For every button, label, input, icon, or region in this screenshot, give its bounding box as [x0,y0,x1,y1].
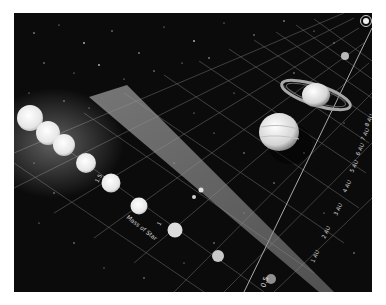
tick-4au: 4 AU [341,179,352,193]
star-3 [53,134,75,156]
tick-7au: 7 AU [359,127,370,141]
star-8 [212,250,224,262]
tick-5au: 5 AU [348,159,359,173]
tick-1au: 1 AU [309,249,320,263]
star-mass-axis-label: Mass of Star [125,213,159,242]
earth-like-planet [199,188,204,193]
saturn-like-planet [279,74,354,115]
inner-planet [192,195,196,199]
diagram-canvas: Mass of Star 1 1.5 0.5 1 AU 2 AU 3 AU 4 … [14,13,372,292]
ice-giant-planet [341,52,349,60]
tick-8au: 8 AU [363,113,372,127]
tick-3au: 3 AU [332,202,343,216]
star-5 [102,174,121,193]
star-mass-tick-1: 1 [156,220,163,226]
habitable-zone-cone [89,85,334,292]
star-6 [131,198,148,215]
tick-2au: 2 AU [320,225,331,239]
star-4 [76,153,96,173]
distant-ringed-planet [361,16,372,27]
space-scene: Mass of Star 1 1.5 0.5 1 AU 2 AU 3 AU 4 … [14,13,372,292]
jupiter-like-planet [259,113,312,164]
star-7 [168,223,183,238]
tick-6au: 6 AU [354,142,365,156]
